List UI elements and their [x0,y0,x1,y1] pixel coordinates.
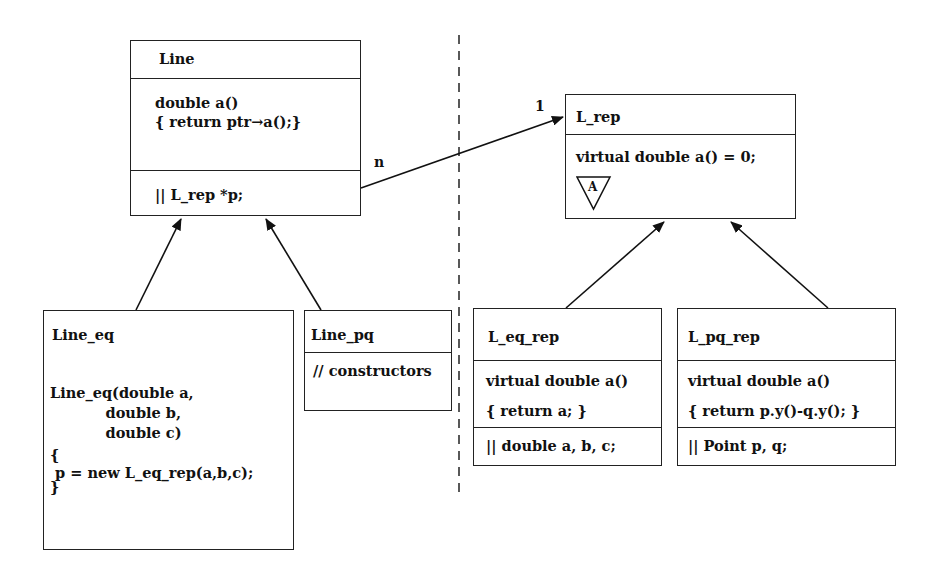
code-line: Line_eq(double a, [50,383,194,403]
class-name: Line [159,49,194,69]
methods-section: virtual double a() = 0; A [566,134,795,218]
method-line: virtual double a() [486,371,628,391]
fields-section: || double a, b, c; [474,427,661,465]
fields-section: || Point p, q; [678,427,895,465]
multiplicity-n: n [374,154,384,170]
class-l-rep[interactable]: L_rep virtual double a() = 0; A [565,94,796,219]
field-line: || double a, b, c; [486,436,616,456]
method-line: virtual double a() = 0; [576,147,756,167]
methods-section: double a() { return ptr→a();} [131,78,360,170]
methods-section: virtual double a() { return p.y()-q.y();… [678,360,895,427]
method-line: { return p.y()-q.y(); } [688,401,860,421]
class-line[interactable]: Line double a() { return ptr→a();} || L_… [130,40,361,216]
method-line: double a() [155,93,238,113]
class-line-pq[interactable]: Line_pq // constructors [304,310,452,411]
inherit-line-eq [136,219,181,310]
field-line: || L_rep *p; [155,185,243,205]
comment-line: // constructors [313,361,432,381]
method-line: { return a; } [486,401,587,421]
class-name: L_pq_rep [688,327,760,347]
class-l-eq-rep[interactable]: L_eq_rep virtual double a() { return a; … [473,308,662,466]
class-l-pq-rep[interactable]: L_pq_rep virtual double a() { return p.y… [677,308,896,466]
class-name: L_eq_rep [488,327,559,347]
method-line: { return ptr→a();} [155,112,301,132]
inherit-l-eq-rep [566,222,664,308]
fields-section: || L_rep *p; [131,170,360,215]
class-name: Line_eq [52,325,114,345]
class-header: Line [131,41,360,78]
method-line: virtual double a() [688,371,830,391]
class-header: L_pq_rep [678,309,895,360]
code-line: { [50,445,59,465]
class-header: L_eq_rep [474,309,661,360]
body-section: // constructors [305,352,451,410]
methods-section: virtual double a() { return a; } [474,360,661,427]
code-line: p = new L_eq_rep(a,b,c); [50,463,253,483]
code-line: } [50,477,59,497]
field-line: || Point p, q; [688,436,787,456]
abstract-marker: A [588,177,597,197]
inherit-l-pq-rep [731,222,828,308]
inherit-line-pq [266,219,321,310]
class-name: Line_pq [311,325,374,345]
class-name: L_rep [576,107,620,127]
association-line [361,117,563,188]
class-line-eq[interactable]: Line_eq Line_eq(double a, double b, doub… [43,310,294,550]
class-header: L_rep [566,95,795,134]
code-line: double c) [50,423,182,443]
class-header: Line_pq [305,311,451,352]
code-line: double b, [50,403,181,423]
multiplicity-1: 1 [535,98,545,114]
